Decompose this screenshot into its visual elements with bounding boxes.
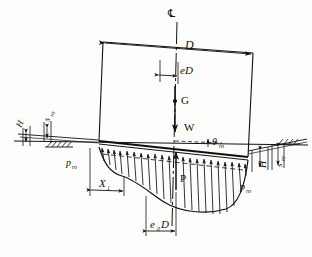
x1-label-sub: 1	[107, 185, 110, 191]
right-settlement-label-sub: ro	[280, 156, 286, 161]
pressure-right-label: p	[239, 181, 245, 192]
figure-root: ℄ D eD G W	[0, 0, 312, 257]
cg-label: G	[181, 94, 189, 106]
right-embedment-label: H	[257, 160, 268, 169]
pressure-right-label-sub: ro	[246, 188, 251, 194]
diameter-label: D	[184, 38, 194, 52]
center-of-gravity-point	[173, 99, 177, 103]
e0d-label-sub: 0	[157, 226, 160, 232]
rotation-angle-label-sub: ro	[219, 143, 224, 149]
centerline-symbol-icon: ℄	[167, 7, 175, 19]
eccentricity-label: eD	[180, 64, 193, 76]
pressure-left-label: p	[65, 157, 71, 168]
pressure-left-label-sub: ro	[72, 164, 77, 170]
resultant-reaction-label: P	[180, 172, 186, 184]
e0d-label: e	[150, 218, 155, 230]
weight-label: W	[184, 121, 195, 133]
rotation-angle-label: θ	[212, 136, 217, 147]
foundation-pressure-diagram: ℄ D eD G W	[0, 0, 312, 257]
e0d-label-tail: D	[160, 218, 169, 230]
right-settlement-label: s	[274, 163, 284, 167]
x1-label: X	[98, 177, 107, 189]
